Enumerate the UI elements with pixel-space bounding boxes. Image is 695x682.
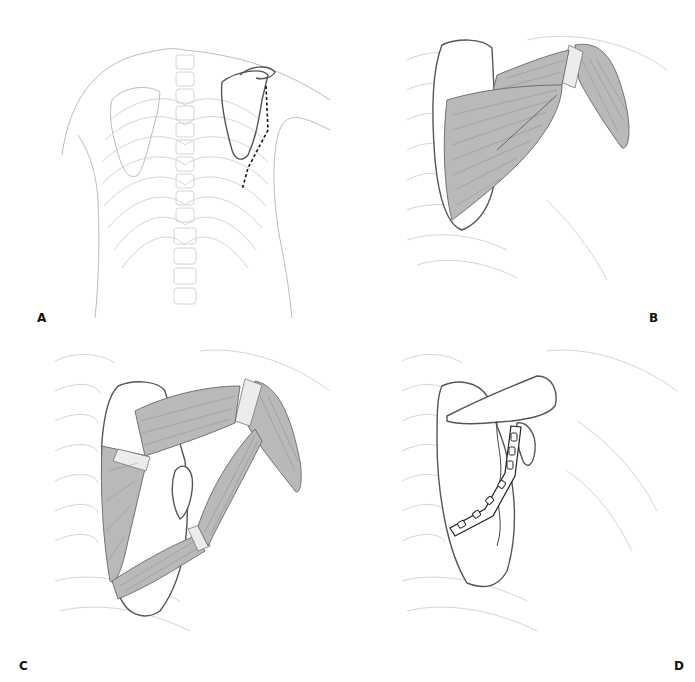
retracted-muscles-illustration	[0, 341, 347, 682]
panel-d: D	[347, 341, 695, 682]
panel-label-a: A	[37, 311, 46, 325]
panel-a: A	[0, 0, 347, 341]
thorax-illustration	[0, 0, 347, 341]
panel-label-d: D	[674, 659, 684, 673]
panel-label-c: C	[19, 659, 28, 673]
panel-b: B	[347, 0, 695, 341]
panel-c: C	[0, 341, 347, 682]
shoulder-muscles-illustration	[347, 0, 695, 341]
plate-fixation-illustration	[347, 341, 695, 682]
panel-label-b: B	[649, 311, 658, 325]
